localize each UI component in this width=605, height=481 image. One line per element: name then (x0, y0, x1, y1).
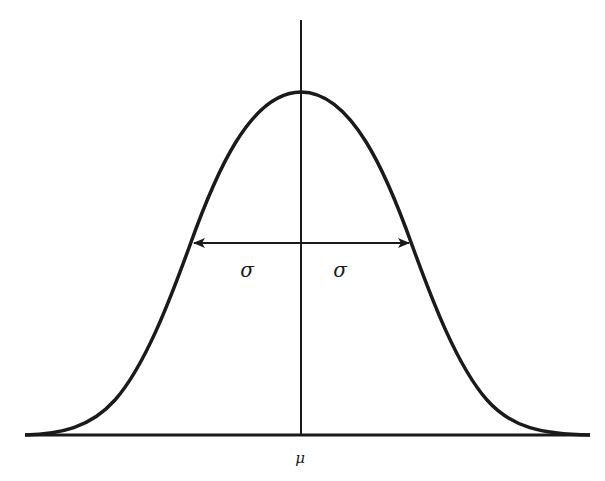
mean-label: μ (295, 449, 305, 467)
normal-curve-diagram (0, 0, 605, 481)
sigma-label-left: σ (240, 258, 254, 282)
bell-curve (25, 92, 590, 435)
sigma-label-right: σ (333, 258, 347, 282)
